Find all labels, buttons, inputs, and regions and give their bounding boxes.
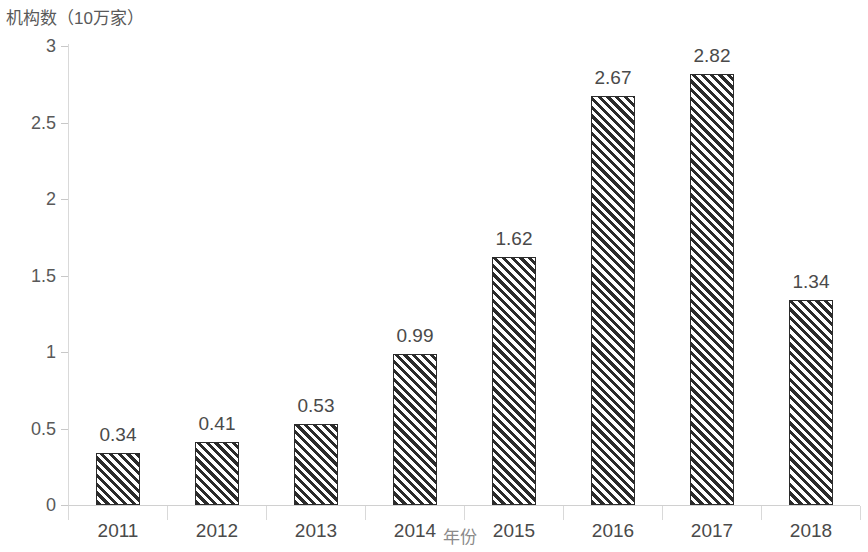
- y-axis-tick: [61, 352, 68, 353]
- x-axis-tick-label: 2012: [167, 520, 267, 542]
- x-axis-tick: [761, 506, 762, 520]
- x-axis-tick: [68, 506, 69, 520]
- bar: [789, 300, 833, 505]
- bar: [96, 453, 140, 505]
- y-axis-tick-labels: 00.511.522.53: [0, 0, 56, 552]
- y-axis-tick-label: 2: [4, 190, 56, 208]
- y-axis-tick-label: 1: [4, 343, 56, 361]
- y-axis-tick: [61, 123, 68, 124]
- x-axis-tick: [365, 506, 366, 520]
- bar-value-label: 2.67: [568, 68, 658, 87]
- bar-value-label: 1.34: [766, 272, 856, 291]
- x-axis-title: 年份: [443, 528, 477, 548]
- x-axis-tick-label: 2017: [662, 520, 762, 542]
- x-axis-tick: [266, 506, 267, 520]
- y-axis-tick: [61, 46, 68, 47]
- x-axis-tick-label: 2016: [563, 520, 663, 542]
- x-axis-tick-label: 2015: [464, 520, 564, 542]
- x-axis-tick: [167, 506, 168, 520]
- y-axis-tick-label: 2.5: [4, 114, 56, 132]
- y-axis-tick: [61, 199, 68, 200]
- bar: [195, 442, 239, 505]
- y-axis-tick: [61, 429, 68, 430]
- y-axis-line: [68, 44, 69, 506]
- bar: [393, 354, 437, 505]
- x-axis-tick: [860, 506, 861, 520]
- bar: [690, 74, 734, 505]
- bar-value-label: 0.99: [370, 326, 460, 345]
- x-axis-tick: [662, 506, 663, 520]
- bar: [591, 96, 635, 505]
- bar-value-label: 0.34: [73, 425, 163, 444]
- bar-value-label: 0.53: [271, 396, 361, 415]
- y-axis-tick-label: 1.5: [4, 267, 56, 285]
- y-axis-tick-label: 0: [4, 496, 56, 514]
- bar-value-label: 1.62: [469, 229, 559, 248]
- y-axis-tick-label: 0.5: [4, 420, 56, 438]
- bar-value-label: 0.41: [172, 414, 262, 433]
- y-axis-tick: [61, 276, 68, 277]
- x-axis-tick: [464, 506, 465, 520]
- bar-value-label: 2.82: [667, 46, 757, 65]
- bar: [294, 424, 338, 505]
- x-axis-tick-label: 2018: [761, 520, 861, 542]
- x-axis-tick-label: 2011: [68, 520, 168, 542]
- y-axis-tick: [61, 505, 68, 506]
- y-axis-tick-label: 3: [4, 37, 56, 55]
- bar-chart: 机构数（10万家） 00.511.522.53 0.340.410.530.99…: [0, 0, 868, 552]
- x-axis-tick: [563, 506, 564, 520]
- bar: [492, 257, 536, 505]
- x-axis-tick-label: 2013: [266, 520, 366, 542]
